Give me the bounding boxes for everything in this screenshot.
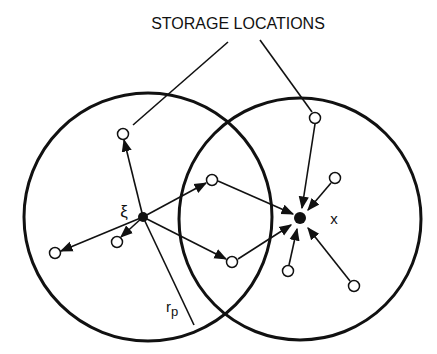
x-arrows	[218, 124, 350, 281]
xi-label: ξ	[120, 202, 128, 221]
xi-arrows	[61, 140, 226, 259]
x-label: x	[330, 210, 338, 227]
storage-node	[349, 281, 360, 292]
p-subscript: p	[171, 304, 178, 319]
storage-node	[118, 129, 129, 140]
storage-node	[227, 257, 238, 268]
storage-node	[330, 173, 341, 184]
x-node	[294, 212, 306, 224]
title-storage-locations: STORAGE LOCATIONS	[151, 15, 325, 32]
storage-node	[207, 175, 218, 186]
storage-node	[50, 248, 61, 259]
storage-node	[112, 237, 123, 248]
rp-label: rp	[166, 298, 178, 319]
storage-node	[310, 113, 321, 124]
storage-node	[283, 266, 294, 277]
xi-node	[138, 212, 148, 222]
diagram-canvas: STORAGE LOCATIONS ξ x r	[0, 0, 437, 354]
